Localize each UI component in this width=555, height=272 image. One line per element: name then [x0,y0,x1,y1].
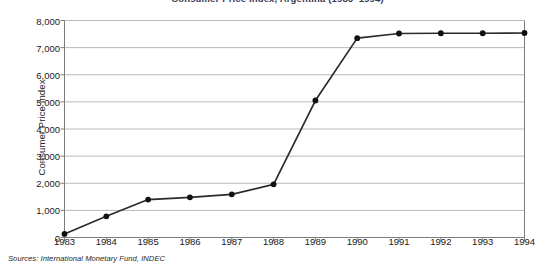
x-tick-label: 1985 [125,236,171,247]
x-tick-label: 1987 [209,236,255,247]
x-tick-label: 1983 [42,236,88,247]
x-tick-label: 1990 [334,236,380,247]
x-axis-tick-labels: 1983198419851986198719881989199019911992… [0,0,555,272]
x-tick-label: 1993 [460,236,506,247]
x-tick-label: 1984 [83,236,129,247]
x-tick-label: 1992 [418,236,464,247]
x-tick-label: 1988 [251,236,297,247]
x-tick-label: 1989 [292,236,338,247]
source-note: Sources: International Monetary Fund, IN… [8,254,165,263]
x-tick-label: 1986 [167,236,213,247]
x-tick-label: 1994 [502,236,548,247]
chart-figure: Consumer Price Index, Argentina (1983–19… [0,0,555,272]
x-tick-label: 1991 [376,236,422,247]
